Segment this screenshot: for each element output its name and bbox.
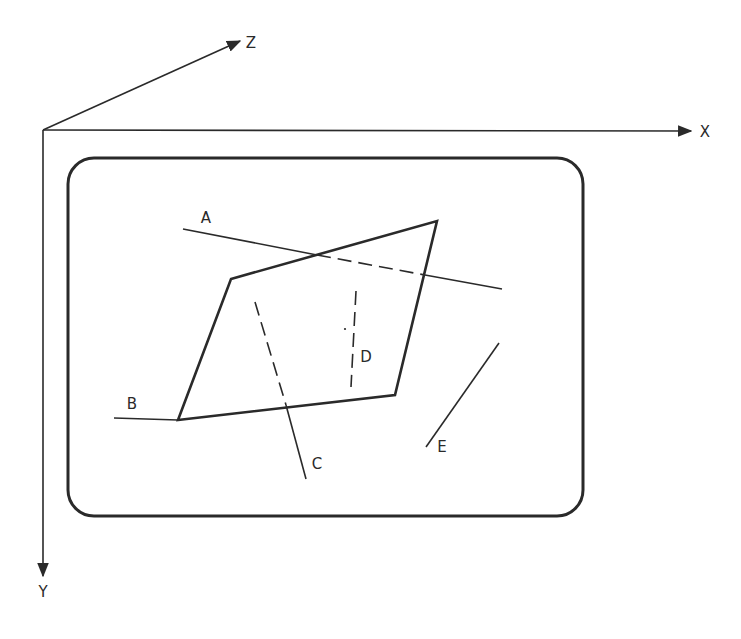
x-axis-arrow: [43, 130, 691, 131]
line-c: C: [255, 302, 322, 479]
line-c-solid-segment: [286, 405, 306, 479]
line-e-solid-segment: [426, 343, 499, 447]
z-axis-label: Z: [246, 34, 256, 52]
line-d-dashed-segment: [351, 291, 356, 387]
plane-polygon: [178, 221, 437, 420]
line-a-solid-segment: [425, 275, 502, 289]
z-axis-arrow: [43, 41, 240, 130]
dot-mark: [344, 328, 346, 330]
lines-group: ABCDE: [114, 209, 502, 479]
line-e: E: [426, 343, 499, 456]
line-b: B: [114, 395, 178, 420]
line-d: D: [351, 291, 372, 387]
coordinate-diagram: X Y Z ABCDE: [0, 0, 741, 639]
screen-frame: [68, 158, 583, 516]
line-d-label: D: [360, 348, 372, 366]
line-a-solid-segment: [183, 229, 317, 255]
line-b-label: B: [127, 395, 137, 413]
y-axis-label: Y: [37, 583, 48, 601]
x-axis-label: X: [700, 123, 710, 141]
line-c-label: C: [312, 455, 322, 473]
line-a-label: A: [201, 209, 212, 227]
line-b-solid-segment: [114, 418, 178, 420]
line-a-dashed-segment: [317, 255, 425, 275]
line-a: A: [183, 209, 502, 289]
marks-group: [344, 328, 346, 330]
line-c-dashed-segment: [255, 302, 286, 405]
line-e-label: E: [437, 438, 446, 456]
